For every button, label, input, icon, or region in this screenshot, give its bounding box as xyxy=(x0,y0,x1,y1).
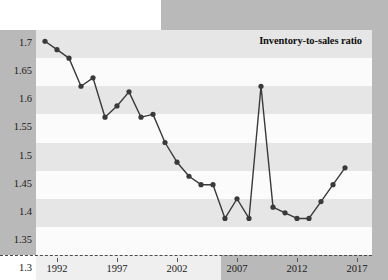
y-axis-tick-label: 1.7 xyxy=(19,38,32,49)
data-point-marker xyxy=(330,182,335,187)
data-point-marker xyxy=(126,89,131,94)
data-point-marker xyxy=(186,174,191,179)
y-axis-tick-label: 1.65 xyxy=(14,66,32,77)
y-axis-tick-label: 1.6 xyxy=(19,94,32,105)
y-axis-tick-label: 1.55 xyxy=(14,122,32,133)
chart-title: Inventory-to-sales ratio xyxy=(259,35,362,46)
data-point-marker xyxy=(150,112,155,117)
x-axis-tick-label: 1992 xyxy=(47,263,68,274)
plot-area xyxy=(36,30,372,255)
data-point-marker xyxy=(318,199,323,204)
y-axis-tick-label: 1.45 xyxy=(14,179,32,190)
y-axis-tick-label: 1.5 xyxy=(19,151,32,162)
x-axis-tick-label: 2007 xyxy=(227,263,248,274)
data-point-marker xyxy=(102,115,107,120)
x-axis-tick-mark xyxy=(297,258,298,262)
data-point-marker xyxy=(198,182,203,187)
y-axis-tick-label: 1.4 xyxy=(19,207,32,218)
data-point-marker xyxy=(90,75,95,80)
data-point-marker xyxy=(234,196,239,201)
x-axis-tick-label: 2017 xyxy=(347,263,368,274)
data-point-marker xyxy=(282,210,287,215)
chart-container: Inventory-to-sales ratio xyxy=(36,30,372,255)
x-axis-tick-mark xyxy=(57,258,58,262)
data-point-marker xyxy=(294,216,299,221)
data-point-marker xyxy=(342,165,347,170)
data-point-marker xyxy=(138,115,143,120)
x-axis-tick-label: 1997 xyxy=(107,263,128,274)
data-point-marker xyxy=(162,140,167,145)
x-axis-tick-label: 2002 xyxy=(167,263,188,274)
x-axis-line xyxy=(0,255,372,257)
x-axis-tick-label: 2012 xyxy=(287,263,308,274)
y-axis-labels: 1.71.651.61.551.51.451.41.351.3 xyxy=(0,30,36,255)
data-point-marker xyxy=(54,47,59,52)
data-point-marker xyxy=(258,84,263,89)
data-point-marker xyxy=(210,182,215,187)
x-axis-tick-mark xyxy=(237,258,238,262)
x-axis-tick-mark xyxy=(177,258,178,262)
y-axis-tick-label: 1.35 xyxy=(14,235,32,246)
data-point-marker xyxy=(66,56,71,61)
data-point-marker xyxy=(174,160,179,165)
series-line xyxy=(45,41,345,218)
page-corner-white-top-left xyxy=(0,0,161,30)
data-point-marker xyxy=(246,216,251,221)
series-layer xyxy=(36,30,372,255)
data-point-marker xyxy=(222,216,227,221)
data-point-marker xyxy=(42,39,47,44)
data-point-marker xyxy=(78,84,83,89)
data-point-marker xyxy=(306,216,311,221)
data-point-marker xyxy=(270,205,275,210)
x-axis-labels: 199219972002200720122017 xyxy=(0,258,388,278)
x-axis-tick-mark xyxy=(357,258,358,262)
data-point-marker xyxy=(114,103,119,108)
x-axis-tick-mark xyxy=(117,258,118,262)
